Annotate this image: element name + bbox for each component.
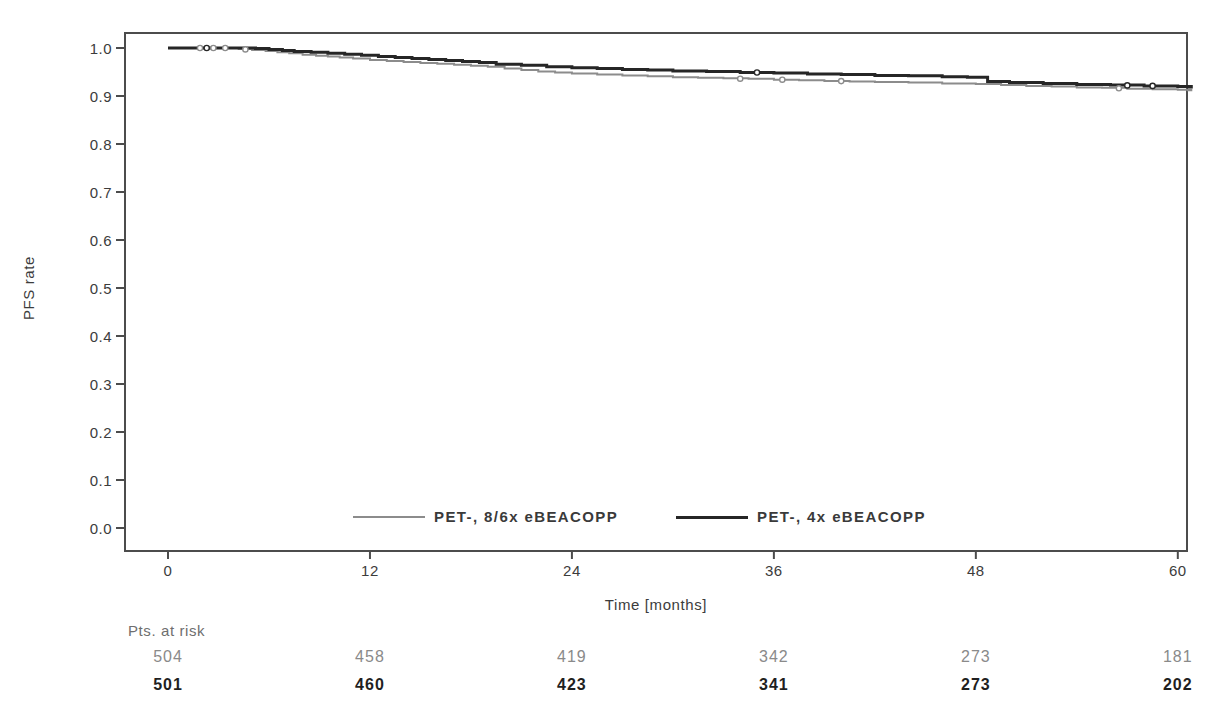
risk-count: 501 <box>153 676 183 694</box>
x-axis-title: Time [months] <box>605 596 707 613</box>
risk-count: 202 <box>1163 676 1193 694</box>
censor-mark-series1 <box>780 77 785 82</box>
legend-label-series2: PET-, 4x eBEACOPP <box>757 508 926 525</box>
x-tick-label: 0 <box>164 562 173 579</box>
km-curve-2 <box>168 48 1191 87</box>
x-tick-label: 48 <box>967 562 985 579</box>
risk-count: 342 <box>759 648 789 666</box>
risk-row-series1: 504458419342273181 <box>0 648 1221 668</box>
plot-area <box>0 0 1221 723</box>
y-tick-label: 0.8 <box>90 136 112 153</box>
plot-border <box>125 33 1187 551</box>
risk-count: 181 <box>1163 648 1193 666</box>
y-tick-label: 0.1 <box>90 472 112 489</box>
x-tick-label: 24 <box>563 562 581 579</box>
y-tick-label: 0.7 <box>90 184 112 201</box>
x-tick-label: 60 <box>1169 562 1187 579</box>
censor-mark-series1 <box>243 47 248 52</box>
legend-line-series2 <box>676 516 748 519</box>
risk-count: 460 <box>355 676 385 694</box>
y-tick-label: 0.3 <box>90 376 112 393</box>
risk-row-series2: 501460423341273202 <box>0 676 1221 696</box>
y-tick-label: 0.4 <box>90 328 112 345</box>
risk-table-title: Pts. at risk <box>128 622 205 639</box>
censor-mark-series1 <box>197 45 202 50</box>
censor-mark-series1 <box>1116 86 1121 91</box>
censor-mark-series2 <box>204 45 209 50</box>
risk-count: 419 <box>557 648 587 666</box>
x-tick-label: 12 <box>361 562 379 579</box>
y-tick-label: 0.9 <box>90 88 112 105</box>
y-tick-label: 0.5 <box>90 280 112 297</box>
risk-count: 504 <box>153 648 183 666</box>
censor-mark-series2 <box>754 70 759 75</box>
risk-count: 423 <box>557 676 587 694</box>
kaplan-meier-figure: PFS rate 0.00.10.20.30.40.50.60.70.80.91… <box>0 0 1221 723</box>
y-tick-label: 0.2 <box>90 424 112 441</box>
censor-mark-series2 <box>1150 83 1155 88</box>
legend-line-series1 <box>353 516 425 518</box>
axis-layer <box>116 33 1187 559</box>
legend-label-series1: PET-, 8/6x eBEACOPP <box>434 508 618 525</box>
risk-count: 341 <box>759 676 789 694</box>
censor-mark-series1 <box>839 79 844 84</box>
censor-mark-series1 <box>738 76 743 81</box>
risk-count: 273 <box>961 676 991 694</box>
risk-count: 273 <box>961 648 991 666</box>
legend: PET-, 8/6x eBEACOPP PET-, 4x eBEACOPP <box>0 505 1221 529</box>
censor-mark-series2 <box>1125 83 1130 88</box>
survival-curves <box>168 48 1191 90</box>
y-axis-tick-labels: 0.00.10.20.30.40.50.60.70.80.91.0 <box>0 0 112 723</box>
x-axis-tick-labels: 01224364860 <box>0 562 1221 582</box>
censor-mark-series1 <box>223 45 228 50</box>
y-tick-label: 1.0 <box>90 40 112 57</box>
x-tick-label: 36 <box>765 562 783 579</box>
y-tick-label: 0.6 <box>90 232 112 249</box>
risk-count: 458 <box>355 648 385 666</box>
censor-mark-series1 <box>211 45 216 50</box>
